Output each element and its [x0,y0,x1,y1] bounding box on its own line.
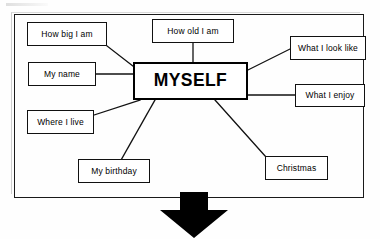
center-label: MYSELF [154,72,227,90]
node-how-big-i-am[interactable]: How big I am [27,22,107,46]
mind-map-page: How big I am How old I am What I look li… [0,0,380,239]
node-how-old-i-am[interactable]: How old I am [152,19,234,43]
node-label: My birthday [91,167,137,176]
node-label: How old I am [167,27,218,36]
node-label: Christmas [277,164,317,173]
node-label: What I look like [298,44,358,53]
node-label: Where I live [37,118,84,127]
down-arrow-icon [158,192,230,238]
node-christmas[interactable]: Christmas [265,156,328,180]
node-myself-center[interactable]: MYSELF [133,62,248,100]
node-my-name[interactable]: My name [28,62,96,86]
node-what-i-look-like[interactable]: What I look like [290,36,366,60]
node-my-birthday[interactable]: My birthday [78,159,150,183]
scan-artifact [6,3,48,6]
node-what-i-enjoy[interactable]: What I enjoy [295,84,365,107]
node-where-i-live[interactable]: Where I live [27,110,94,134]
node-label: My name [44,70,80,79]
node-label: How big I am [41,30,92,39]
node-label: What I enjoy [305,91,354,100]
